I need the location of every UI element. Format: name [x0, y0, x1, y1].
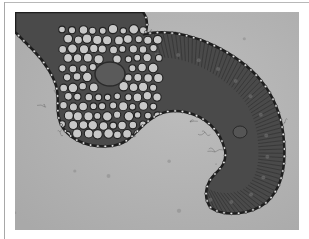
epidermis-bead [199, 39, 202, 42]
palisade-cell [248, 94, 252, 98]
epidermis-bead [282, 133, 285, 136]
cell [153, 35, 162, 44]
epidermis-bead [277, 184, 280, 187]
cell [129, 83, 138, 92]
cell [80, 65, 88, 73]
cell [134, 74, 142, 82]
cell [73, 129, 82, 138]
cell [88, 120, 97, 129]
cell [84, 129, 93, 138]
epidermis-bead [97, 145, 100, 148]
cell [134, 112, 140, 118]
epidermis-bead [188, 112, 191, 115]
cell [64, 34, 73, 43]
epidermis-bead [195, 114, 198, 117]
epidermis-bead [178, 33, 181, 36]
cell [79, 45, 88, 54]
epidermis-bead [250, 69, 253, 72]
cell [90, 44, 98, 52]
cell [129, 121, 137, 129]
cell [103, 112, 112, 121]
cell [108, 24, 117, 33]
palisade-cell [229, 200, 233, 204]
cell [110, 122, 117, 129]
cell [148, 63, 158, 73]
epidermis-bead [171, 32, 174, 35]
epidermis-bead [283, 140, 286, 143]
palisade-cell [259, 113, 263, 117]
cell [150, 103, 157, 110]
epidermis-bead [275, 105, 278, 108]
cell [94, 112, 101, 119]
epidermis-bead [185, 34, 188, 37]
cell [114, 131, 122, 139]
epidermis-bead [281, 126, 284, 129]
cell [68, 27, 75, 34]
micrograph-image [15, 12, 299, 230]
epidermis-bead [265, 202, 268, 205]
cell [143, 53, 151, 61]
epidermis-bead [282, 170, 285, 173]
epidermis-bead [156, 31, 159, 34]
cell [98, 45, 106, 53]
cell [69, 120, 78, 129]
cell [129, 104, 136, 111]
epidermis-bead [149, 32, 152, 35]
epidermis-bead [50, 74, 53, 77]
epidermis-bead [118, 143, 121, 146]
epidermis-bead [166, 110, 169, 113]
epidermis-bead [57, 109, 60, 112]
epidermis-bead [206, 41, 209, 44]
cell [73, 73, 81, 81]
epidermis-bead [202, 118, 205, 121]
speck [243, 37, 246, 40]
cell [69, 103, 77, 111]
epidermis-bead [64, 130, 67, 133]
epidermis-bead [213, 44, 216, 47]
cell [129, 45, 137, 53]
epidermis-bead [104, 145, 107, 148]
cell [85, 93, 92, 100]
cell [119, 45, 126, 52]
epidermis-bead [223, 147, 226, 150]
cell [68, 44, 78, 54]
cell [139, 101, 148, 110]
cell [114, 93, 120, 99]
epidermis-bead [145, 16, 148, 19]
epidermis-bead [208, 122, 211, 125]
epidermis-bead [56, 102, 59, 105]
epidermis-bead [237, 212, 240, 215]
epidermis-bead [226, 51, 229, 54]
cell [119, 102, 128, 111]
epidermis-bead [60, 124, 63, 127]
epidermis-bead [17, 34, 20, 37]
epidermis-bead [192, 36, 195, 39]
epidermis-bead [181, 110, 184, 113]
epidermis-bead [38, 55, 41, 58]
cell [59, 65, 66, 72]
epidermis-bead [125, 139, 128, 142]
cell [110, 46, 118, 54]
speck [177, 209, 181, 213]
epidermis-bead [47, 67, 50, 70]
cell [123, 129, 132, 138]
cell [135, 36, 142, 43]
cell [144, 36, 152, 44]
cell [129, 25, 138, 34]
cell [59, 46, 67, 54]
epidermis-bead [216, 210, 219, 213]
epidermis-bead [159, 112, 162, 115]
epidermis-bead [163, 31, 166, 34]
epidermis-bead [224, 154, 227, 157]
epidermis-bead [206, 185, 209, 188]
epidermis-bead [147, 120, 150, 123]
epidermis-bead [69, 135, 72, 138]
cell [79, 82, 86, 89]
epidermis-bead [174, 110, 177, 113]
epidermis-bead [258, 206, 261, 209]
cell [134, 54, 141, 61]
epidermis-bead [214, 173, 217, 176]
cell [145, 112, 152, 119]
epidermis-bead [260, 79, 263, 82]
epidermis-bead [238, 59, 241, 62]
